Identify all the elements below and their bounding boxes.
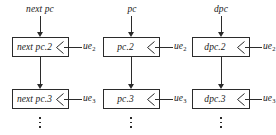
enable-notch-nextpc-3: [56, 93, 64, 106]
continuation-ellipsis-nextpc: [39, 117, 42, 131]
enable-line-nextpc-3: [64, 99, 82, 100]
enable-label-nextpc-2: ue2: [83, 41, 96, 52]
enable-line-dpc-3: [245, 99, 262, 100]
enable-line-dpc-2: [245, 47, 262, 48]
enable-label-dpc-2: ue2: [263, 41, 276, 52]
arrow-into-dpc-2: [217, 16, 226, 37]
register-chain-diagram: next pc next pc.2 ue2 next pc.3 ue3 pc p…: [0, 0, 276, 135]
enable-notch-dpc-2: [237, 41, 245, 54]
enable-line-pc-2: [155, 47, 173, 48]
enable-label-pc-2: ue2: [174, 41, 187, 52]
enable-label-dpc-3: ue3: [263, 93, 276, 104]
enable-notch-pc-3: [147, 93, 155, 106]
enable-label-nextpc-3: ue3: [83, 93, 96, 104]
continuation-ellipsis-pc: [130, 117, 133, 131]
arrow-dpc-2-to-3: [217, 57, 226, 89]
enable-notch-nextpc-2: [56, 41, 64, 54]
arrow-pc-2-to-3: [127, 57, 136, 89]
enable-notch-pc-2: [147, 41, 155, 54]
enable-notch-dpc-3: [237, 93, 245, 106]
arrow-nextpc-2-to-3: [36, 57, 45, 89]
enable-line-pc-3: [155, 99, 173, 100]
column-label-dpc: dpc: [187, 4, 255, 15]
column-label-pc: pc: [98, 4, 166, 15]
continuation-ellipsis-dpc: [220, 117, 223, 131]
arrow-into-nextpc-2: [36, 16, 45, 37]
column-label-nextpc: next pc: [6, 4, 74, 15]
arrow-into-pc-2: [127, 16, 136, 37]
enable-label-pc-3: ue3: [174, 93, 187, 104]
enable-line-nextpc-2: [64, 47, 82, 48]
